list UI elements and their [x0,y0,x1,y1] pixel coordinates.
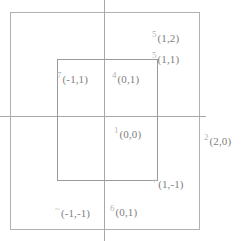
point-label-0-1-top: 4(0,1) [112,69,139,85]
point-coordinate-text: (0,1) [116,206,138,218]
point-coordinate-text: (1,1) [158,53,180,65]
point-label-minus1-1: 7(-1,1) [57,69,88,85]
point-marker-icon: ~ [55,204,60,214]
point-coordinate-text: (2,0) [210,135,232,147]
point-label-2-0: 2(2,0) [204,131,231,147]
point-marker-icon: 5 [152,50,157,60]
point-coordinate-text: (-1,-1) [61,207,90,219]
point-coordinate-text: (1,2) [158,32,180,44]
point-marker-icon: 1 [114,125,119,135]
point-coordinate-text: (1,-1) [158,178,183,190]
point-marker-icon: 7 [57,70,62,80]
point-label-1-2: 5(1,2) [152,28,179,44]
point-label-1-minus1: +(1,-1) [152,174,184,190]
point-coordinate-text: (0,1) [118,73,140,85]
point-marker-icon: 2 [204,132,209,142]
point-marker-icon: 5 [152,29,157,39]
point-marker-icon: + [152,175,157,185]
point-coordinate-text: (0,0) [120,128,142,140]
point-label-1-1: 5(1,1) [152,49,179,65]
point-marker-icon: 4 [112,70,117,80]
point-label-0-1-bottom: 6(0,1) [110,202,137,218]
point-label-minus1-minus1: ~(-1,-1) [55,203,90,219]
point-label-0-0: 1(0,0) [114,124,141,140]
point-marker-icon: 6 [110,203,115,213]
diagram-canvas: 5(1,2) 5(1,1) 7(-1,1) 4(0,1) 1(0,0) 2(2,… [0,0,247,241]
point-coordinate-text: (-1,1) [63,73,88,85]
